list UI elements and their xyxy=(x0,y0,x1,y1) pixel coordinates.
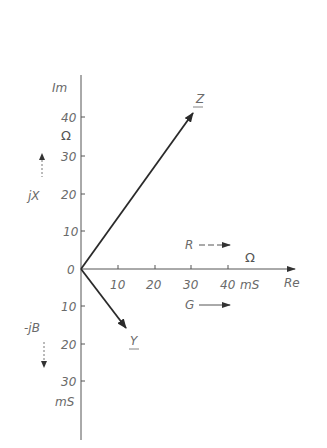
horizontal-axis-title: Re xyxy=(284,276,300,290)
vector-y-label: Y xyxy=(130,334,139,348)
ms-unit-horizontal: mS xyxy=(240,278,260,292)
arrow-down-icon xyxy=(41,361,47,368)
origin-label: 0 xyxy=(67,263,75,277)
phasor-diagram: Im Re 10 20 30 40 Ω 0 10 20 30 mS 10 20 … xyxy=(0,0,327,448)
legend-r-label: R xyxy=(185,238,193,252)
jb-indicator: -jB xyxy=(24,321,47,368)
tick-label-right-40: 40 xyxy=(220,278,236,292)
ms-unit-vertical: mS xyxy=(55,395,75,409)
legend-r: R xyxy=(185,238,230,252)
tick-label-up-30: 30 xyxy=(61,150,77,164)
tick-label-down-20: 20 xyxy=(61,338,77,352)
legend-g-label: G xyxy=(185,298,194,312)
ohm-unit-horizontal: Ω xyxy=(245,250,255,265)
jx-indicator: jX xyxy=(26,153,45,203)
horizontal-axis xyxy=(81,265,295,269)
vertical-axis xyxy=(81,75,85,440)
tick-label-up-20: 20 xyxy=(61,188,77,202)
vertical-axis-title: Im xyxy=(52,81,67,95)
jx-label: jX xyxy=(26,189,40,203)
tick-label-right-10: 10 xyxy=(110,278,126,292)
tick-label-up-40: 40 xyxy=(61,111,77,125)
tick-label-down-10: 10 xyxy=(61,300,77,314)
arrow-up-icon xyxy=(39,153,45,160)
jb-label: -jB xyxy=(24,321,40,335)
ohm-unit-vertical: Ω xyxy=(61,128,71,143)
tick-label-right-30: 30 xyxy=(183,278,199,292)
tick-label-right-20: 20 xyxy=(146,278,162,292)
legend-g: G xyxy=(185,298,230,312)
vector-z-label: Z xyxy=(195,92,205,106)
tick-label-down-30: 30 xyxy=(61,375,77,389)
tick-label-up-10: 10 xyxy=(63,225,79,239)
